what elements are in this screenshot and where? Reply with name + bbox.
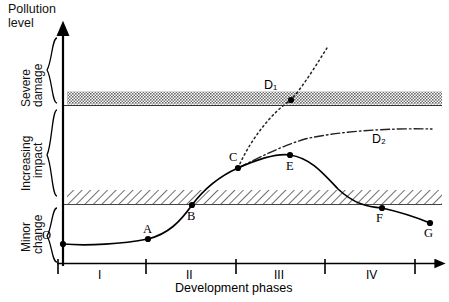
- zone-label-impact-line2: impact: [31, 142, 45, 177]
- threshold-band: [63, 190, 442, 205]
- point-label-b: B: [187, 209, 195, 224]
- y-axis-title-line1: Pollution: [8, 3, 56, 17]
- phase-label-i: I: [98, 268, 101, 282]
- point-label-g: G: [424, 226, 433, 241]
- y-axis-title-line2: level: [8, 17, 56, 31]
- scenario-d1-curve: [238, 48, 327, 168]
- phase-label-iv: IV: [366, 268, 377, 282]
- y-axis-title: Pollution level: [8, 3, 56, 30]
- point-label-c: C: [229, 150, 237, 165]
- scenario-d2-curve: [238, 129, 432, 168]
- point-label-a: A: [143, 222, 152, 237]
- scenario-label-d2: D₂: [372, 132, 386, 146]
- zone-label-severe-line2: damage: [31, 63, 45, 106]
- data-point-o: [60, 241, 66, 247]
- point-label-o: O: [42, 228, 51, 243]
- data-point-b: [189, 202, 195, 208]
- point-label-f: F: [376, 211, 383, 226]
- severe-damage-band: [63, 92, 442, 106]
- x-axis-title: Development phases: [175, 281, 292, 295]
- data-point-e: [287, 152, 293, 158]
- point-label-e: E: [286, 159, 294, 174]
- diagram-svg: [0, 0, 449, 302]
- zone-label-increasing-impact: Increasing impact: [20, 125, 44, 195]
- scenario-label-d1: D₁: [264, 78, 277, 92]
- phase-label-iii: III: [274, 268, 284, 282]
- x-axis: [57, 259, 436, 274]
- zone-label-minor-change: Minor change: [20, 203, 44, 265]
- phase-label-ii: II: [186, 268, 193, 282]
- zone-label-severe-damage: Severe damage: [20, 55, 44, 115]
- diagram-canvas: Pollution level Severe damage Increasing…: [0, 0, 449, 302]
- data-point-c: [235, 165, 241, 171]
